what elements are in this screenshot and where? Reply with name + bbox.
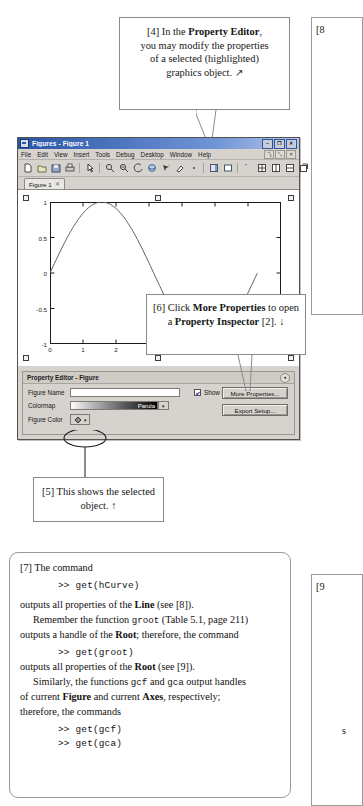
link-plot-icon[interactable] bbox=[187, 162, 200, 175]
menu-item-view[interactable]: View bbox=[54, 151, 68, 158]
hide-plot-tools-icon[interactable]: " bbox=[241, 162, 254, 175]
selection-handle-bottom-left[interactable] bbox=[23, 355, 29, 361]
x-tick-label: 2 bbox=[114, 346, 117, 353]
toolbar-separator-3 bbox=[203, 163, 204, 173]
selection-handle-top-left[interactable] bbox=[23, 195, 29, 201]
callout-5-line-1: [5] This shows the bbox=[42, 486, 119, 497]
menu-item-edit[interactable]: Edit bbox=[37, 151, 48, 158]
open-file-icon[interactable] bbox=[35, 162, 48, 175]
toolbar-separator-2 bbox=[99, 163, 100, 173]
minimize-panel-icon[interactable]: ● bbox=[280, 373, 290, 383]
text7-p6c: and bbox=[147, 676, 167, 687]
rotate-3d-icon[interactable] bbox=[145, 162, 158, 175]
brush-icon[interactable] bbox=[173, 162, 186, 175]
selection-handle-top-center[interactable] bbox=[155, 195, 161, 201]
zoom-in-icon[interactable] bbox=[103, 162, 116, 175]
selection-handle-bottom-right[interactable] bbox=[288, 355, 294, 361]
maximize-button[interactable]: ❐ bbox=[274, 139, 285, 149]
matlab-figure-window[interactable]: Figures - Figure 1 – ❐ ✕ File Edit View … bbox=[17, 137, 300, 440]
export-setup-button[interactable]: Export Setup... bbox=[222, 404, 288, 416]
toolbar-separator-1 bbox=[79, 163, 80, 173]
figure-toolbar: " bbox=[18, 160, 299, 177]
textbox-7-command: [7] The command >> get(hCurve) outputs a… bbox=[9, 552, 291, 798]
callout-6-line-3b: [2]. bbox=[259, 316, 276, 327]
figure-name-input[interactable] bbox=[70, 388, 180, 397]
matlab-figure-icon bbox=[20, 139, 29, 148]
command-get-gcf: >> get(gcf) bbox=[20, 724, 280, 737]
close-tab-icon[interactable]: ✕ bbox=[286, 150, 296, 159]
paint-bucket-icon bbox=[74, 416, 83, 424]
zoom-out-icon[interactable] bbox=[117, 162, 130, 175]
callout-4-line-4-text: graphics object. bbox=[166, 67, 232, 78]
menu-item-tools[interactable]: Tools bbox=[95, 151, 110, 158]
checkbox-box[interactable] bbox=[194, 389, 201, 396]
text7-bold-line: Line bbox=[135, 599, 155, 610]
minimize-button[interactable]: – bbox=[262, 139, 273, 149]
figure-color-picker[interactable]: ▾ bbox=[70, 414, 90, 425]
insert-legend-icon[interactable] bbox=[221, 162, 234, 175]
data-cursor-icon[interactable] bbox=[159, 162, 172, 175]
close-icon[interactable]: ✕ bbox=[55, 181, 60, 187]
pan-icon[interactable] bbox=[131, 162, 144, 175]
x-tick-label: 1 bbox=[81, 346, 84, 353]
colormap-value: Parula bbox=[138, 402, 155, 411]
new-figure-icon[interactable] bbox=[21, 162, 34, 175]
dock-figure-icon[interactable] bbox=[297, 162, 310, 175]
text7-mono-groot: groot bbox=[132, 615, 160, 626]
print-figure-icon[interactable] bbox=[63, 162, 76, 175]
tab-figure-1[interactable]: Figure 1 ✕ bbox=[24, 178, 65, 189]
edit-plot-icon[interactable] bbox=[83, 162, 96, 175]
text7-p2c: (see [8]). bbox=[154, 599, 193, 610]
edge-box-9-label: [9 bbox=[316, 581, 325, 592]
selection-handle-bottom-center[interactable] bbox=[155, 355, 161, 361]
callout-4-line-1c: , bbox=[259, 26, 262, 37]
window-buttons: – ❐ ✕ bbox=[262, 139, 297, 149]
arrow-up-right-icon: ↗ bbox=[235, 67, 243, 78]
text7-p5: outputs all properties of the Root (see … bbox=[20, 660, 280, 674]
menu-item-debug[interactable]: Debug bbox=[116, 151, 135, 158]
callout-4-line-2: you may modify the properties bbox=[125, 39, 284, 53]
cascade-icon[interactable] bbox=[283, 162, 296, 175]
callout-6-bold-inspector: Inspector bbox=[217, 316, 259, 327]
save-figure-icon[interactable] bbox=[49, 162, 62, 175]
callout-4-bold-property-editor: Property Editor bbox=[188, 26, 259, 37]
close-button[interactable]: ✕ bbox=[286, 139, 297, 149]
menu-item-insert[interactable]: Insert bbox=[74, 151, 90, 158]
menu-item-help[interactable]: Help bbox=[198, 151, 211, 158]
command-get-hcurve: >> get(hCurve) bbox=[20, 580, 280, 593]
chevron-down-icon[interactable]: ▾ bbox=[84, 417, 87, 423]
menu-item-window[interactable]: Window bbox=[170, 151, 192, 158]
selection-handle-top-right[interactable] bbox=[288, 195, 294, 201]
y-tick-label: -0.5 bbox=[36, 305, 47, 312]
y-tick-label: -1 bbox=[41, 341, 47, 348]
tile-icon[interactable] bbox=[269, 162, 282, 175]
undock-icon[interactable]: ⤵ bbox=[264, 150, 274, 159]
tab-figure-1-label: Figure 1 bbox=[29, 181, 52, 188]
insert-colorbar-icon[interactable] bbox=[207, 162, 220, 175]
window-titlebar[interactable]: Figures - Figure 1 – ❐ ✕ bbox=[18, 138, 299, 149]
dock-icon[interactable]: ⤡ bbox=[275, 150, 285, 159]
command-get-groot: >> get(groot) bbox=[20, 647, 280, 660]
arrow-down-icon: ↓ bbox=[279, 316, 284, 327]
edge-box-9: [9 s bbox=[311, 574, 363, 806]
callout-6-bold-property: Property bbox=[175, 316, 215, 327]
colormap-preview[interactable]: Parula bbox=[70, 401, 158, 410]
callout-5-ellipse-pointer bbox=[55, 430, 115, 478]
callout-6-line-3: Inspector [2]. ↓ bbox=[217, 316, 284, 327]
text7-bold-axes: Axes bbox=[142, 691, 163, 702]
text7-p3: Remember the function groot (Table 5.1, … bbox=[20, 613, 280, 628]
text7-p4: outputs a handle of the Root; therefore,… bbox=[20, 628, 280, 642]
text7-p7e: , respectively; bbox=[163, 691, 220, 702]
edge-box-9-fragment: s bbox=[342, 725, 346, 736]
menu-item-file[interactable]: File bbox=[21, 151, 31, 158]
text7-p8: therefore, the commands bbox=[20, 705, 280, 719]
callout-4-line-4: graphics object. ↗ bbox=[125, 66, 284, 80]
edge-box-8-label: [8 bbox=[316, 24, 325, 35]
y-tick-label: 0.5 bbox=[38, 234, 47, 241]
menu-item-desktop[interactable]: Desktop bbox=[141, 151, 164, 158]
y-tick-label: 0 bbox=[44, 270, 47, 277]
show-plot-tools-icon[interactable] bbox=[255, 162, 268, 175]
callout-4-property-editor: [4] In the Property Editor, you may modi… bbox=[119, 17, 290, 110]
chevron-down-icon[interactable]: ▾ bbox=[158, 401, 169, 410]
text7-mono-gca: gca bbox=[167, 677, 184, 688]
